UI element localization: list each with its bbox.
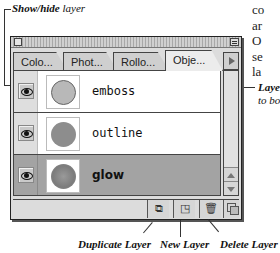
callout-layer-right: Laye to bo <box>258 81 280 107</box>
palette-menu-icon[interactable] <box>230 38 239 46</box>
callout-line-show-hide-horizontal-top <box>4 9 11 10</box>
delete-layer-button[interactable]: 🗑 <box>199 200 221 218</box>
layer-row-outline[interactable]: outline <box>14 113 220 155</box>
callout-delete-layer: Delete Layer <box>220 238 278 250</box>
tab-color[interactable]: Colo... <box>13 52 67 70</box>
close-box-icon[interactable] <box>14 38 22 46</box>
scroll-down-arrow-icon[interactable] <box>224 181 238 195</box>
tab-objects[interactable]: Obje... <box>165 50 223 71</box>
layer-thumbnail <box>46 117 80 151</box>
circle-thumbnail-icon <box>51 164 76 189</box>
tab-photo[interactable]: Phot... <box>63 52 117 70</box>
layers-scrollbar[interactable] <box>223 70 239 196</box>
callout-line-new <box>180 220 181 237</box>
visibility-column <box>14 155 38 196</box>
duplicate-layer-button[interactable]: ⧉ <box>147 200 169 218</box>
callout-line-show-hide-vertical <box>4 9 5 85</box>
new-layer-button[interactable]: ◳ <box>173 200 195 218</box>
layers-list: emboss outline glow <box>13 70 221 196</box>
eye-icon[interactable] <box>18 167 34 183</box>
palette-titlebar[interactable] <box>11 37 241 48</box>
layer-thumbnail <box>46 75 80 109</box>
tab-scroll-right-arrow-icon[interactable] <box>223 52 239 70</box>
layer-row-glow[interactable]: glow <box>14 155 220 196</box>
eye-icon[interactable] <box>18 125 34 141</box>
layer-name: emboss <box>92 84 135 98</box>
palette-toolbar: ⧉ ◳ 🗑 <box>13 199 239 217</box>
callout-line-delete <box>208 219 219 232</box>
layer-name: glow <box>92 168 124 182</box>
visibility-column <box>14 71 38 112</box>
layers-palette-window: Colo... Phot... Rollo... Obje... emboss … <box>10 36 242 220</box>
eye-icon[interactable] <box>18 83 34 99</box>
circle-thumbnail-icon <box>51 80 76 105</box>
callout-duplicate-layer: Duplicate Layer <box>78 238 151 250</box>
tab-rollover[interactable]: Rollo... <box>113 52 169 70</box>
callout-line-duplicate <box>143 222 153 233</box>
resize-box-icon[interactable] <box>223 200 239 218</box>
callout-new-layer: New Layer <box>160 238 209 250</box>
scroll-up-arrow-icon[interactable] <box>224 167 238 181</box>
layer-thumbnail <box>46 159 80 193</box>
circle-thumbnail-icon <box>51 122 76 147</box>
palette-tabs: Colo... Phot... Rollo... Obje... <box>13 50 239 70</box>
layer-row-emboss[interactable]: emboss <box>14 71 220 113</box>
layer-name: outline <box>92 126 143 140</box>
body-text-fragments: co ar O se la <box>252 2 280 80</box>
visibility-column <box>14 113 38 154</box>
callout-show-hide-layer: Show/hide layer <box>12 2 85 14</box>
